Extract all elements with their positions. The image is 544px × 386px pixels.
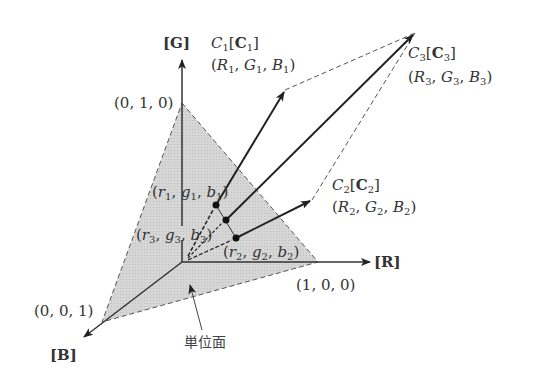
g-axis-label: [G] [163, 36, 190, 51]
vertex-r-unit: (1, 0, 0) [296, 278, 355, 293]
b-axis-label: [B] [50, 348, 77, 363]
p2-chromaticity-label: (r2, g2, b2) [223, 245, 299, 262]
unit-plane-label: 単位面 [184, 335, 226, 349]
c2-label: C2[C2] [332, 178, 380, 195]
vertex-b-unit: (0, 0, 1) [34, 304, 93, 319]
c1-label: C1[C1] [211, 36, 259, 53]
parallelogram-c2-c3 [312, 33, 415, 200]
c3-label: C3[C3] [408, 46, 456, 63]
point-c1-chromaticity [213, 202, 220, 209]
point-c2-chromaticity [233, 235, 240, 242]
p1-chromaticity-label: (r1, g1, b1) [152, 185, 228, 202]
point-c3-chromaticity [223, 217, 230, 224]
vertex-g-unit: (0, 1, 0) [114, 96, 173, 111]
c2-tristimulus: (R2, G2, B2) [332, 200, 416, 217]
parallelogram-c1-c3 [285, 33, 415, 90]
c1-tristimulus: (R1, G1, B1) [211, 58, 295, 75]
p3-chromaticity-label: (r3, g3, b3) [136, 228, 212, 245]
c3-tristimulus: (R3, G3, B3) [408, 70, 492, 87]
r-axis-label: [R] [374, 255, 401, 270]
